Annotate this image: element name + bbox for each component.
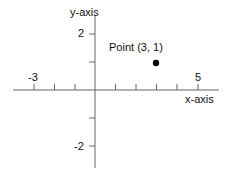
y-tick-label-neg2: -2 [74,141,84,152]
point-label: Point (3, 1) [109,42,163,53]
y-axis-label: y-axis [70,7,99,18]
x-tick-label-neg3: -3 [28,72,38,83]
x-tick-label-5: 5 [195,72,201,83]
point-marker [153,60,159,66]
x-axis-label: x-axis [185,94,214,105]
y-tick-label-2: 2 [78,28,84,39]
x-ticks [34,84,198,90]
coordinate-plane [0,0,229,180]
